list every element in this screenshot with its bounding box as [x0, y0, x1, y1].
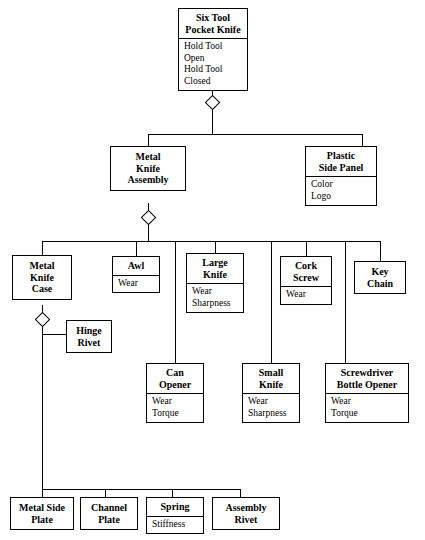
node-metal-knife-assembly[interactable]: Metal Knife Assembly	[110, 146, 186, 191]
connector-root-to-bus	[212, 110, 213, 134]
node-attributes: Hold Tool Open Hold Tool Closed	[179, 38, 247, 90]
node-title: Cork Screw	[281, 257, 331, 286]
attribute-item: Torque	[331, 408, 404, 420]
connector-bus-to-asmrivet	[240, 489, 241, 497]
node-metal-knife-case[interactable]: Metal Knife Case	[12, 255, 72, 300]
connector-metalasm-to-bus	[148, 225, 149, 241]
attribute-item: Wear	[331, 396, 404, 408]
connector-bus-level4	[42, 489, 240, 490]
node-attributes: Wear	[281, 286, 331, 304]
attribute-item: Wear	[286, 289, 327, 301]
node-title: Awl	[113, 257, 159, 275]
connector-bus-level3	[42, 241, 380, 242]
aggregation-diamond-knife-case	[35, 312, 51, 328]
node-title: Metal Knife Case	[13, 256, 71, 299]
attribute-item: Wear	[118, 278, 155, 290]
node-small-knife[interactable]: Small Knife Wear Sharpness	[242, 363, 300, 423]
connector-bus-to-keychain	[380, 241, 381, 261]
aggregation-diamond-metal-assembly	[141, 210, 157, 226]
connector-bus-to-spring	[172, 489, 173, 497]
node-title: Six Tool Pocket Knife	[179, 9, 247, 38]
connector-knifecase-down	[42, 325, 43, 497]
attribute-item: Wear	[192, 286, 239, 298]
node-title: Spring	[147, 498, 203, 516]
node-large-knife[interactable]: Large Knife Wear Sharpness	[186, 253, 244, 313]
connector-bus-to-screwdriver	[345, 241, 346, 363]
diagram-canvas: Six Tool Pocket Knife Hold Tool Open Hol…	[0, 0, 425, 540]
connector-bus-to-smallknife	[271, 241, 272, 363]
connector-bus-to-channelplate	[105, 489, 106, 497]
node-attributes: Color Logo	[306, 176, 376, 205]
connector-bus-to-canopener	[175, 241, 176, 363]
node-title: Screwdriver Bottle Opener	[326, 364, 408, 393]
node-title: Metal Side Plate	[11, 498, 73, 529]
node-hinge-rivet[interactable]: Hinge Rivet	[66, 320, 112, 353]
node-title: Metal Knife Assembly	[111, 147, 185, 190]
attribute-item: Stiffness	[152, 519, 199, 531]
attribute-item: Color	[311, 179, 372, 191]
node-attributes: Wear Sharpness	[187, 283, 243, 312]
attribute-item: Logo	[311, 191, 372, 203]
node-attributes: Wear	[113, 275, 159, 293]
aggregation-diamond-root	[205, 95, 221, 111]
connector-bus-level2	[148, 134, 362, 135]
connector-bus-to-largeknife	[215, 241, 216, 253]
node-title: Small Knife	[243, 364, 299, 393]
node-plastic-side-panel[interactable]: Plastic Side Panel Color Logo	[305, 146, 377, 206]
connector-bus-to-knifecase	[42, 241, 43, 255]
attribute-item: Torque	[152, 408, 199, 420]
node-title: Large Knife	[187, 254, 243, 283]
node-attributes: Wear Torque	[326, 393, 408, 422]
node-metal-side-plate[interactable]: Metal Side Plate	[10, 497, 74, 530]
connector-bus-to-metalasm	[148, 134, 149, 146]
node-screwdriver-bottle-opener[interactable]: Screwdriver Bottle Opener Wear Torque	[325, 363, 409, 423]
node-six-tool-pocket-knife[interactable]: Six Tool Pocket Knife Hold Tool Open Hol…	[178, 8, 248, 91]
node-attributes: Wear Torque	[147, 393, 203, 422]
node-title: Assembly Rivet	[213, 498, 279, 529]
connector-bus-to-corkscrew	[306, 241, 307, 256]
node-attributes: Stiffness	[147, 516, 203, 534]
attribute-item: Wear	[248, 396, 295, 408]
node-attributes: Wear Sharpness	[243, 393, 299, 422]
connector-bus-to-sidepanel	[362, 134, 363, 146]
node-cork-screw[interactable]: Cork Screw Wear	[280, 256, 332, 305]
attribute-item: Wear	[152, 396, 199, 408]
node-title: Hinge Rivet	[67, 321, 111, 352]
attribute-item: Hold Tool Open	[184, 41, 243, 64]
node-channel-plate[interactable]: Channel Plate	[80, 497, 138, 530]
node-can-opener[interactable]: Can Opener Wear Torque	[146, 363, 204, 423]
node-title: Key Chain	[355, 262, 405, 293]
node-title: Channel Plate	[81, 498, 137, 529]
node-title: Can Opener	[147, 364, 203, 393]
connector-bus-to-awl	[136, 241, 137, 256]
node-awl[interactable]: Awl Wear	[112, 256, 160, 293]
attribute-item: Sharpness	[192, 298, 239, 310]
node-key-chain[interactable]: Key Chain	[354, 261, 406, 294]
attribute-item: Hold Tool Closed	[184, 64, 243, 87]
node-spring[interactable]: Spring Stiffness	[146, 497, 204, 534]
node-title: Plastic Side Panel	[306, 147, 376, 176]
node-assembly-rivet[interactable]: Assembly Rivet	[212, 497, 280, 530]
attribute-item: Sharpness	[248, 408, 295, 420]
